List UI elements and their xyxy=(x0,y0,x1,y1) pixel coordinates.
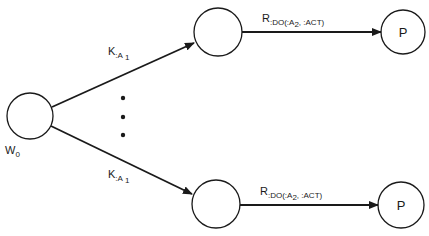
edge-label-bot-k: K:A1 xyxy=(108,168,130,185)
node-top-p: P xyxy=(381,10,425,54)
edge-label-top-r: R:DO(:A2, :ACT) xyxy=(262,12,325,29)
w0-label: W0 xyxy=(5,144,20,159)
node-top-mid xyxy=(194,8,242,56)
node-bot-p-label: P xyxy=(397,198,406,213)
node-bot-p: P xyxy=(378,182,424,228)
node-top-p-label: P xyxy=(399,25,408,40)
vertical-ellipsis-icon xyxy=(121,96,125,137)
node-w0 xyxy=(7,93,53,139)
edge-label-top-k: K:A1 xyxy=(108,45,130,62)
diagram-canvas: W0 P P K:A1 K:A1 R:DO(:A2, :ACT) R:DO(:A… xyxy=(0,0,429,236)
edge-label-bot-r: R:DO(:A2, :ACT) xyxy=(260,185,323,202)
node-bot-mid xyxy=(192,180,240,228)
